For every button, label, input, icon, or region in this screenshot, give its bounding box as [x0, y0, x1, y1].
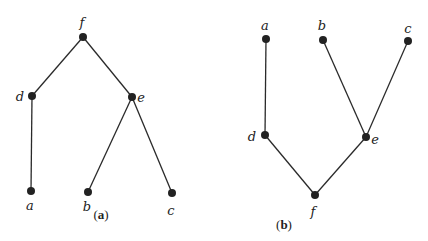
node-label-d: d: [16, 89, 24, 104]
diagram-caption: (a): [93, 207, 108, 222]
node-e: [362, 133, 370, 141]
node-label-f: f: [79, 15, 87, 30]
node-label-c: c: [167, 203, 175, 218]
edge-b-e: [323, 40, 366, 137]
edge-f-d: [32, 37, 83, 96]
node-c: [404, 37, 412, 45]
edge-e-b: [88, 97, 132, 192]
diagram-a: fdeabc(a): [16, 15, 176, 222]
edge-d-a: [31, 96, 32, 191]
node-f: [79, 33, 87, 41]
node-label-e: e: [137, 90, 145, 105]
node-e: [128, 93, 136, 101]
node-d: [28, 92, 36, 100]
node-label-b: b: [318, 18, 326, 33]
diagram-b: abcdef(b): [248, 18, 413, 232]
node-label-f: f: [310, 204, 318, 219]
node-a: [27, 187, 35, 195]
node-c: [168, 189, 176, 197]
edge-a-d: [265, 39, 266, 135]
node-b: [319, 36, 327, 44]
node-a: [262, 35, 270, 43]
node-label-b: b: [83, 199, 91, 214]
node-d: [261, 131, 269, 139]
edge-c-e: [366, 41, 408, 137]
node-f: [311, 191, 319, 199]
edge-e-c: [132, 97, 172, 193]
edge-e-f: [315, 137, 366, 195]
edge-d-f: [265, 135, 315, 195]
node-label-a: a: [26, 198, 34, 213]
tree-diagrams-canvas: fdeabc(a) abcdef(b): [0, 0, 428, 241]
node-label-d: d: [248, 129, 256, 144]
node-label-e: e: [371, 132, 379, 147]
edge-f-e: [83, 37, 132, 97]
node-label-a: a: [261, 18, 269, 33]
diagram-caption: (b): [276, 217, 292, 232]
node-b: [84, 188, 92, 196]
node-label-c: c: [404, 21, 412, 36]
